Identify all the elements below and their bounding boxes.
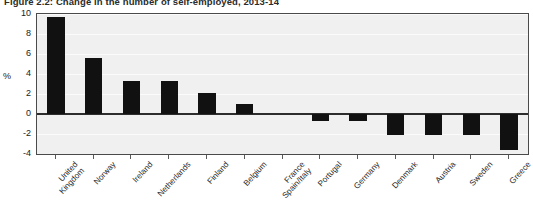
y-axis-tick-label: -2 — [0, 128, 34, 138]
x-axis-tick-mark — [244, 155, 245, 159]
x-axis-label: United Kingdom — [51, 160, 87, 196]
x-axis-label: Norway — [92, 160, 118, 187]
x-axis-tick-mark — [470, 155, 471, 159]
x-axis-label: Sweden — [468, 160, 495, 188]
x-axis-tick-mark — [395, 155, 396, 159]
bar — [47, 17, 64, 114]
x-axis-tick-mark — [168, 155, 169, 159]
bar — [161, 81, 178, 114]
y-axis-tick-label: -4 — [0, 148, 34, 158]
x-axis-label: Belgium — [242, 160, 269, 188]
bar-series — [37, 14, 528, 154]
y-axis-tick-label: 6 — [0, 48, 34, 58]
x-axis-tick-mark — [357, 155, 358, 159]
bar — [349, 114, 366, 121]
x-axis-tick-mark — [282, 155, 283, 159]
x-axis-tick-mark — [55, 155, 56, 159]
y-axis-tick-labels: 1086420-2-4 — [0, 0, 34, 215]
x-axis-category-labels: United KingdomNorwayIrelandNetherlandsFi… — [36, 160, 529, 215]
x-axis-label: Austria — [433, 160, 457, 185]
bar — [425, 114, 442, 135]
y-axis-tick-label: 10 — [0, 8, 34, 18]
bar — [463, 114, 480, 135]
x-axis-label: Finland — [206, 160, 231, 186]
x-axis-tick-mark — [206, 155, 207, 159]
x-axis-label: Denmark — [390, 160, 419, 191]
x-axis-tick-mark — [433, 155, 434, 159]
bar — [236, 104, 253, 114]
x-axis-tick-mark — [319, 155, 320, 159]
bar — [500, 114, 517, 150]
y-axis-tick-label: 8 — [0, 28, 34, 38]
x-axis-label: Netherlands — [156, 160, 193, 199]
bar — [312, 114, 329, 121]
plot-area — [36, 13, 529, 155]
y-axis-tick-label: 4 — [0, 68, 34, 78]
x-axis-tick-mark — [508, 155, 509, 159]
x-axis-label: Ireland — [131, 160, 155, 185]
x-axis-label: Greece — [508, 160, 533, 186]
x-axis-label: Portugal — [316, 160, 344, 189]
bar — [123, 81, 140, 114]
bar — [387, 114, 404, 135]
y-axis-tick-label: 2 — [0, 88, 34, 98]
figure-container: Figure 2.2: Change in the number of self… — [0, 0, 533, 215]
x-axis-label: Germany — [352, 160, 382, 191]
bar — [85, 58, 102, 114]
x-axis-tick-mark — [93, 155, 94, 159]
x-axis-tick-mark — [130, 155, 131, 159]
y-axis-tick-label: 0 — [0, 108, 34, 118]
bar — [198, 93, 215, 114]
figure-title: Figure 2.2: Change in the number of self… — [4, 0, 279, 7]
x-axis-label: France Spain/Italy — [273, 160, 313, 201]
